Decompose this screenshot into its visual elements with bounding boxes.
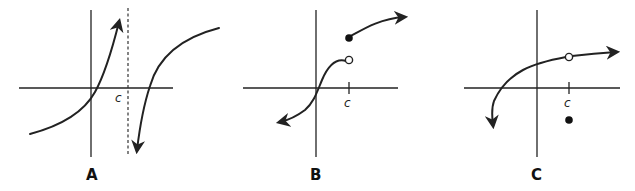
graph-a-left-branch: [30, 22, 119, 134]
graph-c-filled-dot: [565, 116, 573, 124]
graph-b-label: B: [310, 166, 321, 184]
graph-c-label: C: [531, 166, 542, 184]
graph-c-curve-left: [492, 57, 566, 125]
graph-c-c-label: c: [564, 96, 571, 110]
graph-b-c-label: c: [344, 96, 351, 110]
graph-c: c C: [464, 10, 620, 184]
graph-c-curve-right: [572, 52, 616, 56]
graph-a-label: A: [86, 166, 98, 184]
graph-a: c A: [19, 8, 219, 184]
graph-a-c-label: c: [115, 91, 122, 105]
function-discontinuity-figure: c A c B c C: [0, 0, 635, 191]
graph-a-right-branch: [137, 28, 219, 150]
graph-c-open-circle: [565, 53, 572, 60]
graph-b-open-circle: [345, 56, 352, 63]
graph-b-filled-dot: [345, 34, 353, 42]
graph-b: c B: [243, 10, 404, 184]
graph-b-right-branch: [349, 17, 404, 37]
graph-b-left-branch: [280, 60, 346, 122]
